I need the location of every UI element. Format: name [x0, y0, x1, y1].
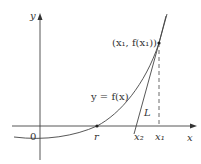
root-point-dot: [95, 124, 98, 127]
tangent-point-dot: [157, 41, 160, 44]
tangent-line-label: L: [143, 107, 151, 118]
x-axis-label: x: [187, 132, 193, 143]
curve-label: y = f(x): [90, 91, 129, 102]
x1-label: x₁: [155, 131, 165, 142]
root-label: r: [94, 131, 100, 142]
function-curve: [14, 16, 166, 138]
x2-label: x₂: [134, 131, 144, 142]
y-axis-label: y: [29, 10, 36, 21]
origin-label: 0: [30, 131, 36, 142]
x-axis-arrow-icon: [190, 124, 197, 129]
newton-method-diagram: y x 0 r x₂ x₁ L y = f(x) (x₁, f(x₁)): [0, 0, 201, 164]
tangent-point-label: (x₁, f(x₁)): [112, 37, 157, 48]
y-axis-arrow-icon: [38, 13, 43, 20]
